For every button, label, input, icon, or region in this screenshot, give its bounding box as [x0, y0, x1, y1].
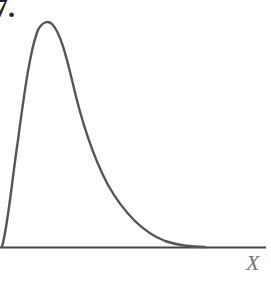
figure-number: 7.	[0, 0, 15, 24]
skewed-density-curve	[2, 22, 205, 247]
curve-plot	[0, 0, 271, 285]
density-curve-figure: 7. X	[0, 0, 271, 285]
x-axis-label: X	[246, 250, 259, 276]
